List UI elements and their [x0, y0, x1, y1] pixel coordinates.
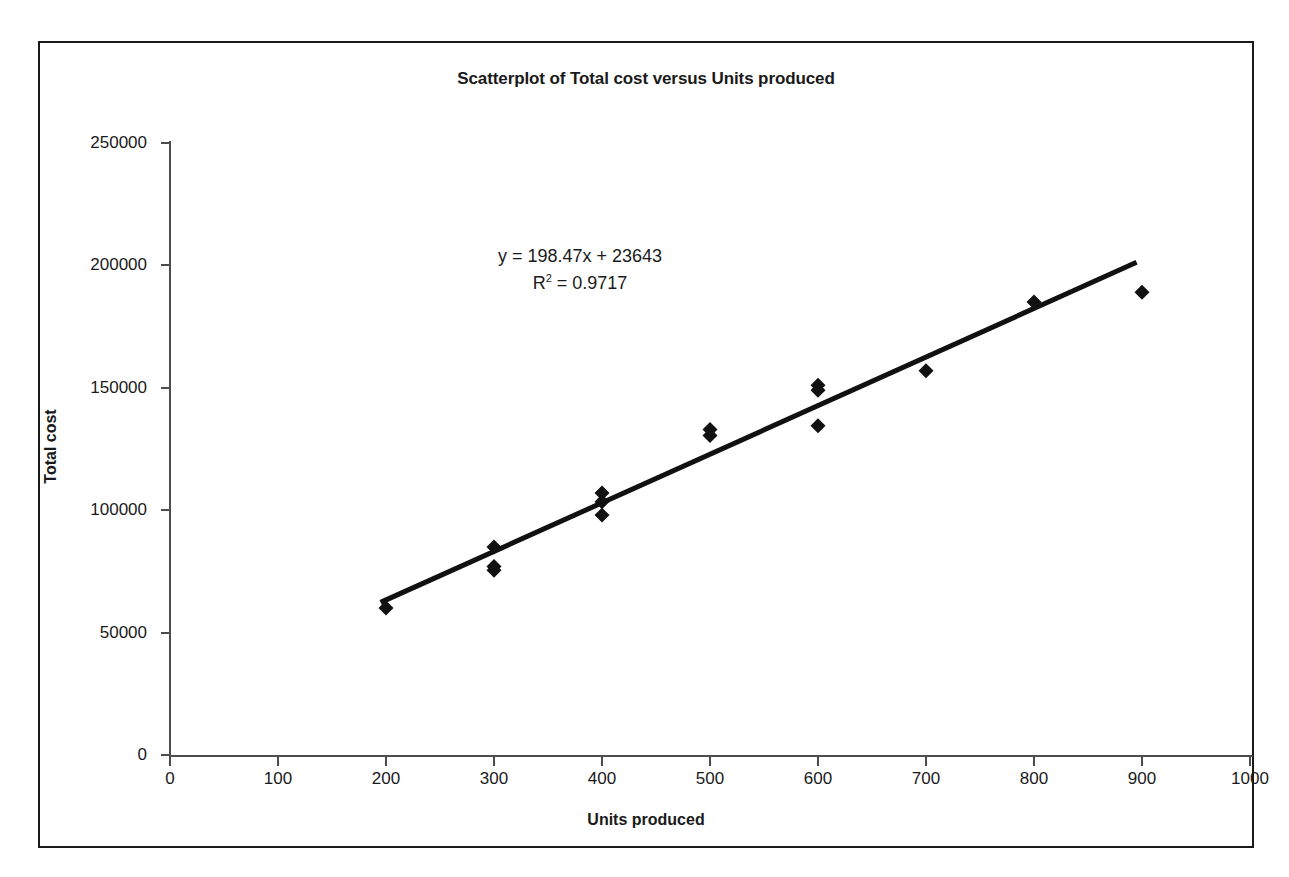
- data-point-marker: [487, 539, 502, 554]
- y-tick: [161, 142, 170, 144]
- y-tick: [161, 264, 170, 266]
- x-tick-label: 300: [480, 769, 508, 789]
- x-tick: [493, 757, 495, 766]
- y-tick-label: 0: [138, 745, 147, 765]
- x-tick-label: 1000: [1231, 769, 1269, 789]
- r-squared-label: R: [533, 273, 546, 293]
- y-tick: [161, 509, 170, 511]
- y-axis-title: Total cost: [38, 43, 64, 850]
- y-tick: [161, 387, 170, 389]
- x-tick-label: 500: [696, 769, 724, 789]
- x-tick-label: 600: [804, 769, 832, 789]
- x-tick: [1249, 757, 1251, 766]
- x-tick-label: 0: [165, 769, 174, 789]
- regression-equation: y = 198.47x + 23643: [420, 243, 740, 270]
- y-tick: [161, 754, 170, 756]
- data-point-marker: [487, 563, 502, 578]
- chart-frame: Scatterplot of Total cost versus Units p…: [38, 41, 1254, 848]
- y-tick-label: 50000: [100, 623, 147, 643]
- data-point-marker: [595, 486, 610, 501]
- chart-title: Scatterplot of Total cost versus Units p…: [40, 69, 1252, 89]
- x-axis-line: [169, 755, 1253, 757]
- x-tick-label: 800: [1020, 769, 1048, 789]
- x-tick: [1033, 757, 1035, 766]
- data-point-marker: [703, 428, 718, 443]
- data-point-marker: [1135, 285, 1150, 300]
- data-point-marker: [379, 601, 394, 616]
- data-point-marker: [487, 559, 502, 574]
- data-point-marker: [703, 422, 718, 437]
- r-squared-number: = 0.9717: [552, 273, 628, 293]
- x-tick: [1141, 757, 1143, 766]
- x-tick: [925, 757, 927, 766]
- data-point-marker: [595, 494, 610, 509]
- data-point-marker: [1027, 295, 1042, 310]
- scatter-data-layer: [40, 43, 1256, 850]
- x-tick-label: 100: [264, 769, 292, 789]
- y-tick-label: 200000: [90, 255, 147, 275]
- regression-line: [381, 262, 1137, 602]
- x-tick: [385, 757, 387, 766]
- x-tick: [169, 757, 171, 766]
- x-tick: [601, 757, 603, 766]
- x-tick: [709, 757, 711, 766]
- data-point-marker: [811, 383, 826, 398]
- data-point-marker: [811, 418, 826, 433]
- x-tick-label: 400: [588, 769, 616, 789]
- y-tick-label: 150000: [90, 378, 147, 398]
- y-tick-label: 100000: [90, 500, 147, 520]
- r-squared-value: R2 = 0.9717: [420, 270, 740, 297]
- x-tick: [277, 757, 279, 766]
- x-tick-label: 200: [372, 769, 400, 789]
- y-tick: [161, 632, 170, 634]
- x-tick: [817, 757, 819, 766]
- trend-line: [381, 262, 1137, 602]
- regression-annotation: y = 198.47x + 23643 R2 = 0.9717: [420, 243, 740, 297]
- x-axis-title: Units produced: [40, 811, 1252, 829]
- x-tick-label: 700: [912, 769, 940, 789]
- x-tick-label: 900: [1128, 769, 1156, 789]
- data-point-marker: [595, 508, 610, 523]
- data-point-markers: [379, 285, 1150, 616]
- data-point-marker: [811, 378, 826, 393]
- y-tick-label: 250000: [90, 133, 147, 153]
- data-point-marker: [919, 363, 934, 378]
- y-axis-line: [169, 141, 171, 757]
